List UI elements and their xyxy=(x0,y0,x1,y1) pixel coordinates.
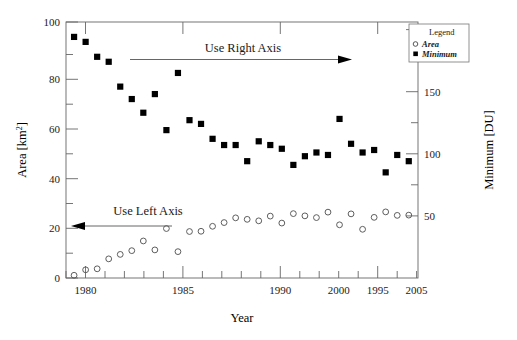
x-tick-label-3: 1995 xyxy=(367,284,390,296)
use-right-axis-label: Use Right Axis xyxy=(205,41,282,55)
y-left-tick-label-60: 60 xyxy=(49,123,61,135)
x-tick-label-2000: 2000 xyxy=(328,284,351,296)
y-left-title-word: Area xyxy=(15,153,29,178)
data-point-minimum xyxy=(117,84,123,90)
y-right-tick-label-50: 50 xyxy=(424,210,436,222)
x-tick-label-1: 1985 xyxy=(172,284,195,296)
svg-text:Area [km2]: Area [km2] xyxy=(15,122,29,178)
data-point-minimum xyxy=(406,158,412,164)
y-left-title-unit: [km xyxy=(15,130,29,150)
x-tick-label-2: 1990 xyxy=(269,284,292,296)
data-point-minimum xyxy=(371,147,377,153)
data-point-minimum xyxy=(129,96,135,102)
ozone-dual-axis-scatter: 1980 1985 1990 1995 2000 100 80 60 40 20… xyxy=(0,0,517,340)
y-left-tick-label-20: 20 xyxy=(49,222,61,234)
data-point-minimum xyxy=(140,110,146,116)
data-point-minimum xyxy=(383,169,389,175)
legend-filled-square-icon xyxy=(413,52,418,57)
data-point-minimum xyxy=(325,152,331,158)
data-point-minimum xyxy=(175,70,181,76)
data-point-minimum xyxy=(279,146,285,152)
data-point-minimum xyxy=(360,149,366,155)
data-point-minimum xyxy=(244,158,250,164)
data-point-minimum xyxy=(221,142,227,148)
y-left-tick-label-40: 40 xyxy=(49,173,61,185)
data-point-minimum xyxy=(186,117,192,123)
data-point-minimum xyxy=(336,116,342,122)
data-point-minimum xyxy=(209,136,215,142)
legend-box: Legend Area Minimum xyxy=(409,24,469,62)
data-point-minimum xyxy=(267,142,273,148)
x-tick-label-2005: 2005 xyxy=(406,284,429,296)
y-right-title-text: Minimum [DU] xyxy=(482,110,496,190)
data-point-minimum xyxy=(394,152,400,158)
data-point-minimum xyxy=(163,127,169,133)
data-point-minimum xyxy=(313,149,319,155)
y-left-tick-label-80: 80 xyxy=(49,73,61,85)
x-axis-title: Year xyxy=(230,311,254,325)
data-point-minimum xyxy=(152,91,158,97)
y-right-axis-title: Minimum [DU] xyxy=(482,110,496,190)
y-right-tick-label-100: 100 xyxy=(424,148,441,160)
data-point-minimum xyxy=(233,142,239,148)
legend-entry-minimum: Minimum xyxy=(421,49,457,59)
y-left-tick-label-0: 0 xyxy=(55,272,61,284)
y-left-tick-label-100: 100 xyxy=(44,16,61,28)
data-point-minimum xyxy=(198,121,204,127)
y-left-axis-title: Area [km2] xyxy=(15,122,29,178)
data-point-minimum xyxy=(256,138,262,144)
data-point-minimum xyxy=(290,162,296,168)
data-point-minimum xyxy=(106,59,112,65)
chart-figure: 1980 1985 1990 1995 2000 100 80 60 40 20… xyxy=(0,0,517,340)
data-point-minimum xyxy=(302,153,308,159)
data-point-minimum xyxy=(71,34,77,40)
data-point-minimum xyxy=(83,39,89,45)
use-left-axis-label: Use Left Axis xyxy=(113,204,183,218)
y-right-tick-label-150: 150 xyxy=(424,86,441,98)
y-left-title-close: ] xyxy=(15,122,29,126)
x-tick-label-0: 1980 xyxy=(75,284,98,296)
legend-entry-area: Area xyxy=(421,39,440,49)
data-point-minimum xyxy=(348,141,354,147)
legend-title: Legend xyxy=(429,27,455,37)
data-point-minimum xyxy=(94,54,100,60)
